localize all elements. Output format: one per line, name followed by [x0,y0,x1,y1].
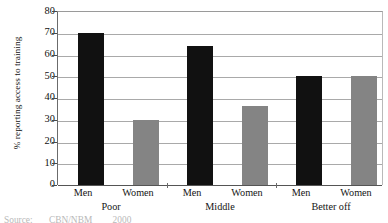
y-tick-label-40: 40 [15,92,55,102]
x-group-label-poor: Poor [82,201,140,212]
x-label-better-women: Women [327,187,385,198]
y-tick-label-10: 10 [15,158,55,168]
bar-poor-men [78,33,104,185]
y-tick-label-60: 60 [15,49,55,59]
x-label-middle-men: Men [163,187,221,198]
bar-middle-women [242,106,268,185]
gridline-30 [58,121,382,122]
source-note-label: Source: [4,215,33,223]
y-tick-label-80: 80 [15,6,55,16]
bar-better-women [351,76,377,185]
bar-poor-women [133,120,159,185]
axis-baseline [58,185,382,186]
y-tick-label-30: 30 [15,114,55,124]
gridline-20 [58,143,382,144]
y-tick-label-70: 70 [15,27,55,37]
x-label-poor-men: Men [54,187,112,198]
y-tick-label-50: 50 [15,71,55,81]
x-label-poor-women: Women [109,187,167,198]
plot-area [57,11,383,185]
y-tick-label-0: 0 [15,179,55,189]
gridline-60 [58,56,382,57]
x-group-label-middle: Middle [191,201,249,212]
gridline-40 [58,99,382,100]
y-tick-mark-0 [52,185,57,186]
gridline-10 [58,164,382,165]
x-group-label-better: Better off [296,201,366,212]
x-label-middle-women: Women [218,187,276,198]
bar-middle-men [187,46,213,185]
source-note-year: 2000 [113,215,132,223]
gridline-50 [58,77,382,78]
bar-better-men [296,76,322,185]
bar-chart: % reporting access to training 80 70 60 … [0,0,388,223]
source-note: Source: CBN/NBM 2000 [4,215,388,223]
y-tick-label-20: 20 [15,136,55,146]
x-label-better-men: Men [272,187,330,198]
source-note-body: CBN/NBM [49,215,92,223]
gridline-70 [58,34,382,35]
